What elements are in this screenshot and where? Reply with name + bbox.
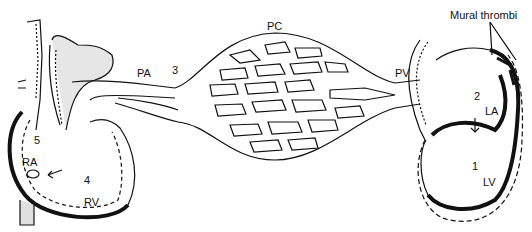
label-pulmonary-vein: PV: [395, 68, 410, 79]
aorta: [49, 36, 113, 130]
pulmonary-capillaries: [175, 33, 395, 160]
label-left-atrium: LA: [485, 106, 498, 117]
left-heart: [409, 22, 523, 221]
heart-circulation-diagram: [0, 0, 532, 232]
label-number-5: 5: [34, 135, 40, 146]
label-right-ventricle: RV: [84, 197, 99, 208]
label-left-ventricle: LV: [483, 177, 496, 188]
label-mural-thrombi: Mural thrombi: [450, 10, 517, 21]
label-pulmonary-artery: PA: [137, 68, 151, 79]
label-number-1: 1: [472, 161, 478, 172]
label-number-2: 2: [474, 91, 480, 102]
label-pulmonary-capillaries: PC: [267, 21, 282, 32]
label-number-3: 3: [172, 65, 178, 76]
right-heart: [10, 112, 135, 225]
label-number-4: 4: [84, 175, 90, 186]
label-right-atrium: RA: [22, 157, 37, 168]
pulmonary-artery: [72, 81, 178, 122]
